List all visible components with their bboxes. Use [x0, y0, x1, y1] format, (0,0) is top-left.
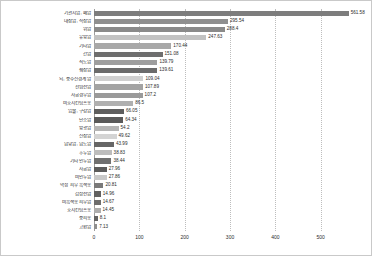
category-label: 비호지킨림프종 — [1, 101, 94, 106]
bar-value-label: 64.34 — [123, 118, 137, 123]
category-label: 식도암 — [1, 60, 94, 65]
bar-row: 대장암, 직장암295.54 — [1, 17, 371, 25]
bar-zone: 561.58 — [94, 9, 371, 17]
bar-value-label: 66.05 — [124, 109, 138, 114]
bar[interactable] — [94, 126, 119, 131]
bar-row: 뇌, 중추신경계 암109.04 — [1, 75, 371, 83]
bar[interactable] — [94, 158, 111, 163]
bar-row: 호지킨림프종14.45 — [1, 206, 371, 214]
bar-zone: 27.86 — [94, 173, 371, 181]
bar[interactable] — [94, 134, 117, 139]
bar-value-label: 86.5 — [133, 101, 144, 106]
category-label: 중피종 — [1, 216, 94, 221]
category-label: 기타 인두암 — [1, 159, 94, 164]
bar-value-label: 20.81 — [103, 183, 117, 188]
bar[interactable] — [94, 35, 206, 40]
bar-zone: 139.79 — [94, 58, 371, 66]
bar[interactable] — [94, 68, 157, 73]
bar-value-label: 43.99 — [114, 142, 128, 147]
bar-value-label: 14.96 — [101, 192, 115, 197]
bar-row: 자궁경부암107.2 — [1, 91, 371, 99]
category-label: 갑상선암 — [1, 192, 94, 197]
bar[interactable] — [94, 142, 114, 147]
x-tick-label: 400 — [271, 234, 279, 240]
category-label: 췌장암 — [1, 68, 94, 73]
bar[interactable] — [94, 93, 143, 98]
bar-value-label: 107.89 — [143, 85, 159, 90]
bar[interactable] — [94, 43, 171, 48]
bar-zone: 27.96 — [94, 165, 371, 173]
bar[interactable] — [94, 52, 163, 57]
bar-value-label: 14.67 — [101, 200, 115, 205]
bar-row: 중피종8.1 — [1, 214, 371, 222]
bar-zone: 14.45 — [94, 206, 371, 214]
category-label: 뇌, 중추신경계 암 — [1, 77, 94, 82]
bar-zone: 38.83 — [94, 149, 371, 157]
bar-zone: 49.62 — [94, 132, 371, 140]
category-label: 전립선암 — [1, 85, 94, 90]
category-label: 난소암 — [1, 118, 94, 123]
bar-value-label: 8.1 — [98, 216, 106, 221]
category-label: 기타암 — [1, 44, 94, 49]
bar-zone: 43.99 — [94, 141, 371, 149]
bar-zone: 20.81 — [94, 182, 371, 190]
category-label: 고환암 — [1, 225, 94, 230]
bar-zone: 109.04 — [94, 75, 371, 83]
bar[interactable] — [94, 109, 124, 114]
bar-row: 전립선암107.89 — [1, 83, 371, 91]
bar-value-label: 561.58 — [349, 11, 365, 16]
bar-row: 비인두암27.86 — [1, 173, 371, 181]
bar[interactable] — [94, 183, 103, 188]
bar-row: 비호지킨림프종86.5 — [1, 99, 371, 107]
bar-row: 유방암247.63 — [1, 34, 371, 42]
bar[interactable] — [94, 19, 228, 24]
bar-zone: 8.1 — [94, 214, 371, 222]
bar-value-label: 170.44 — [171, 44, 187, 49]
bar[interactable] — [94, 167, 107, 172]
chart-frame: 기관지암, 폐암561.58대장암, 직장암295.54위암288.4유방암24… — [0, 0, 372, 256]
bar-row: 담낭암, 담도암43.99 — [1, 141, 371, 149]
bar-row: 갑상선암14.96 — [1, 190, 371, 198]
plot-area: 기관지암, 폐암561.58대장암, 직장암295.54위암288.4유방암24… — [1, 1, 371, 255]
bar[interactable] — [94, 117, 123, 122]
bar-zone: 107.89 — [94, 83, 371, 91]
bar[interactable] — [94, 76, 143, 81]
bar-row: 간암151.08 — [1, 50, 371, 58]
x-tick-label: 500 — [317, 234, 325, 240]
x-tick-label: 100 — [135, 234, 143, 240]
bar-zone: 14.96 — [94, 190, 371, 198]
bar[interactable] — [94, 175, 107, 180]
bar-row: 악성 피부 흑색종20.81 — [1, 182, 371, 190]
bar-value-label: 49.62 — [117, 134, 131, 139]
bar-zone: 288.4 — [94, 25, 371, 33]
bar[interactable] — [94, 60, 157, 65]
bar-row: 난소암64.34 — [1, 116, 371, 124]
bar[interactable] — [94, 191, 101, 196]
category-label: 후두암 — [1, 151, 94, 156]
category-label: 유방암 — [1, 35, 94, 40]
category-label: 호지킨림프종 — [1, 208, 94, 213]
bar-value-label: 139.79 — [157, 60, 173, 65]
bar-value-label: 247.63 — [206, 35, 222, 40]
bar-row: 입술, 구강암66.05 — [1, 108, 371, 116]
bar-row: 후두암38.83 — [1, 149, 371, 157]
bar-rows: 기관지암, 폐암561.58대장암, 직장암295.54위암288.4유방암24… — [1, 9, 371, 231]
bar-zone: 64.34 — [94, 116, 371, 124]
bar-value-label: 38.83 — [112, 151, 126, 156]
x-tick-label: 0 — [93, 234, 96, 240]
bar[interactable] — [94, 84, 143, 89]
x-tick-label: 300 — [226, 234, 234, 240]
category-label: 담낭암, 담도암 — [1, 142, 94, 147]
category-label: 악성 피부 흑색종 — [1, 183, 94, 188]
bar-zone: 54.2 — [94, 124, 371, 132]
bar[interactable] — [94, 27, 225, 32]
bar-row: 기타암170.44 — [1, 42, 371, 50]
bar[interactable] — [94, 150, 112, 155]
bar[interactable] — [94, 101, 133, 106]
bar[interactable] — [94, 11, 349, 16]
bar-zone: 151.08 — [94, 50, 371, 58]
category-label: 신장암 — [1, 134, 94, 139]
bar-value-label: 14.45 — [101, 208, 115, 213]
bar-zone: 247.63 — [94, 34, 371, 42]
bar[interactable] — [94, 200, 101, 205]
